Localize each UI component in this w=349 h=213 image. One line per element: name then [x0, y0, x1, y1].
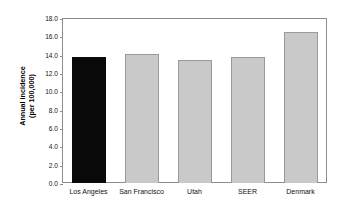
y-axis-tick-mark [60, 147, 63, 148]
y-axis-tick-mark [60, 184, 63, 185]
y-axis-tick-label: 4.0 [49, 143, 58, 150]
y-axis-tick-mark [60, 37, 63, 38]
y-axis-tick-mark [60, 129, 63, 130]
y-axis-tick-label: 6.0 [49, 125, 58, 132]
y-axis-tick-label: 2.0 [49, 161, 58, 168]
y-axis-tick-label: 18.0 [45, 15, 58, 22]
x-axis-tick-label: Los Angeles [62, 188, 115, 195]
y-axis-tick-mark [60, 92, 63, 93]
y-axis-tick-mark [60, 74, 63, 75]
y-axis-tick-label: 8.0 [49, 106, 58, 113]
y-axis-tick-labels: 0.02.04.06.08.010.012.014.016.018.0 [36, 14, 60, 184]
x-axis-tick-label: San Francisco [115, 188, 168, 195]
bar-chart: Annual incidence (per 100,000) 0.02.04.0… [0, 0, 349, 213]
y-axis-tick-label: 14.0 [45, 51, 58, 58]
x-axis-tick-label: Utah [168, 188, 221, 195]
x-axis-tick-label: SEER [221, 188, 274, 195]
y-axis-tick-mark [60, 19, 63, 20]
y-axis-tick-label: 0.0 [49, 180, 58, 187]
x-axis-tick-labels: Los AngelesSan FranciscoUtahSEERDenmark [62, 188, 327, 195]
y-axis-tick-label: 12.0 [45, 70, 58, 77]
y-axis-tick-mark [60, 166, 63, 167]
y-axis-title-line1: Annual incidence [18, 66, 27, 126]
y-axis-tick-mark [60, 56, 63, 57]
y-axis-tick-label: 10.0 [45, 88, 58, 95]
x-axis-tick-label: Denmark [274, 188, 327, 195]
y-axis-title-line2: (per 100,000) [27, 66, 36, 126]
plot-area [62, 18, 327, 183]
y-axis-tick-label: 16.0 [45, 33, 58, 40]
y-axis-tick-mark [60, 111, 63, 112]
